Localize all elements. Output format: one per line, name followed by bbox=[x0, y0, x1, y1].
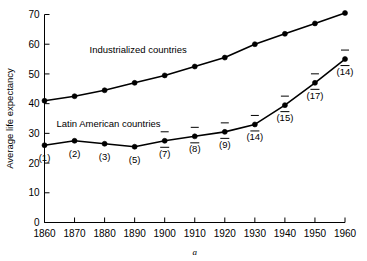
x-tick-label: 1910 bbox=[184, 228, 207, 239]
point-count-label: (17) bbox=[306, 90, 323, 101]
data-point bbox=[102, 88, 107, 93]
x-tick-label: 1880 bbox=[93, 228, 116, 239]
y-tick-label: 0 bbox=[34, 217, 40, 228]
data-point bbox=[343, 11, 348, 16]
chart-container: 0102030405060701860187018801890190019101… bbox=[0, 0, 367, 261]
data-point bbox=[42, 98, 47, 103]
point-count-label: (5) bbox=[129, 154, 141, 165]
data-point bbox=[222, 129, 227, 134]
data-point bbox=[72, 138, 77, 143]
y-tick-label: 70 bbox=[28, 9, 40, 20]
x-tick-label: 1950 bbox=[304, 228, 327, 239]
data-point bbox=[162, 73, 167, 78]
data-point bbox=[282, 103, 287, 108]
series-label-1: Industrialized countries bbox=[90, 44, 187, 55]
x-tick-label: 1890 bbox=[124, 228, 147, 239]
line-chart: 0102030405060701860187018801890190019101… bbox=[0, 0, 367, 261]
data-point bbox=[102, 141, 107, 146]
series-label-2: Latin American countries bbox=[57, 118, 161, 129]
x-tick-label: 1870 bbox=[63, 228, 86, 239]
point-count-label: (2) bbox=[69, 148, 81, 159]
x-tick-label: 1940 bbox=[274, 228, 297, 239]
x-tick-label: 1920 bbox=[214, 228, 237, 239]
point-count-label: (15) bbox=[276, 112, 293, 123]
x-tick-label: 1960 bbox=[334, 228, 357, 239]
point-count-label: (3) bbox=[99, 151, 111, 162]
data-point bbox=[192, 134, 197, 139]
x-tick-label: 1900 bbox=[154, 228, 177, 239]
point-count-label: (9) bbox=[219, 139, 231, 150]
y-tick-label: 10 bbox=[28, 187, 40, 198]
figure-caption: a bbox=[193, 247, 198, 257]
x-tick-label: 1860 bbox=[33, 228, 56, 239]
data-point bbox=[192, 64, 197, 69]
data-point bbox=[343, 57, 348, 62]
data-point bbox=[72, 94, 77, 99]
y-tick-label: 30 bbox=[28, 128, 40, 139]
data-point bbox=[132, 144, 137, 149]
data-point bbox=[222, 55, 227, 60]
point-count-label: (8) bbox=[189, 143, 201, 154]
y-tick-label: 50 bbox=[28, 69, 40, 80]
data-point bbox=[312, 80, 317, 85]
series-line-1 bbox=[45, 13, 346, 101]
y-tick-label: 60 bbox=[28, 39, 40, 50]
data-point bbox=[162, 138, 167, 143]
data-point bbox=[132, 80, 137, 85]
x-tick-label: 1930 bbox=[244, 228, 267, 239]
y-axis-title: Average life expectancy bbox=[4, 68, 15, 169]
point-count-label: (7) bbox=[159, 148, 171, 159]
data-point bbox=[42, 143, 47, 148]
y-tick-label: 40 bbox=[28, 98, 40, 109]
point-count-label: (14) bbox=[337, 66, 354, 77]
data-point bbox=[282, 31, 287, 36]
point-count-label: (1) bbox=[39, 152, 51, 163]
data-point bbox=[252, 42, 257, 47]
point-count-label: (14) bbox=[246, 131, 263, 142]
data-point bbox=[252, 122, 257, 127]
data-point bbox=[312, 21, 317, 26]
